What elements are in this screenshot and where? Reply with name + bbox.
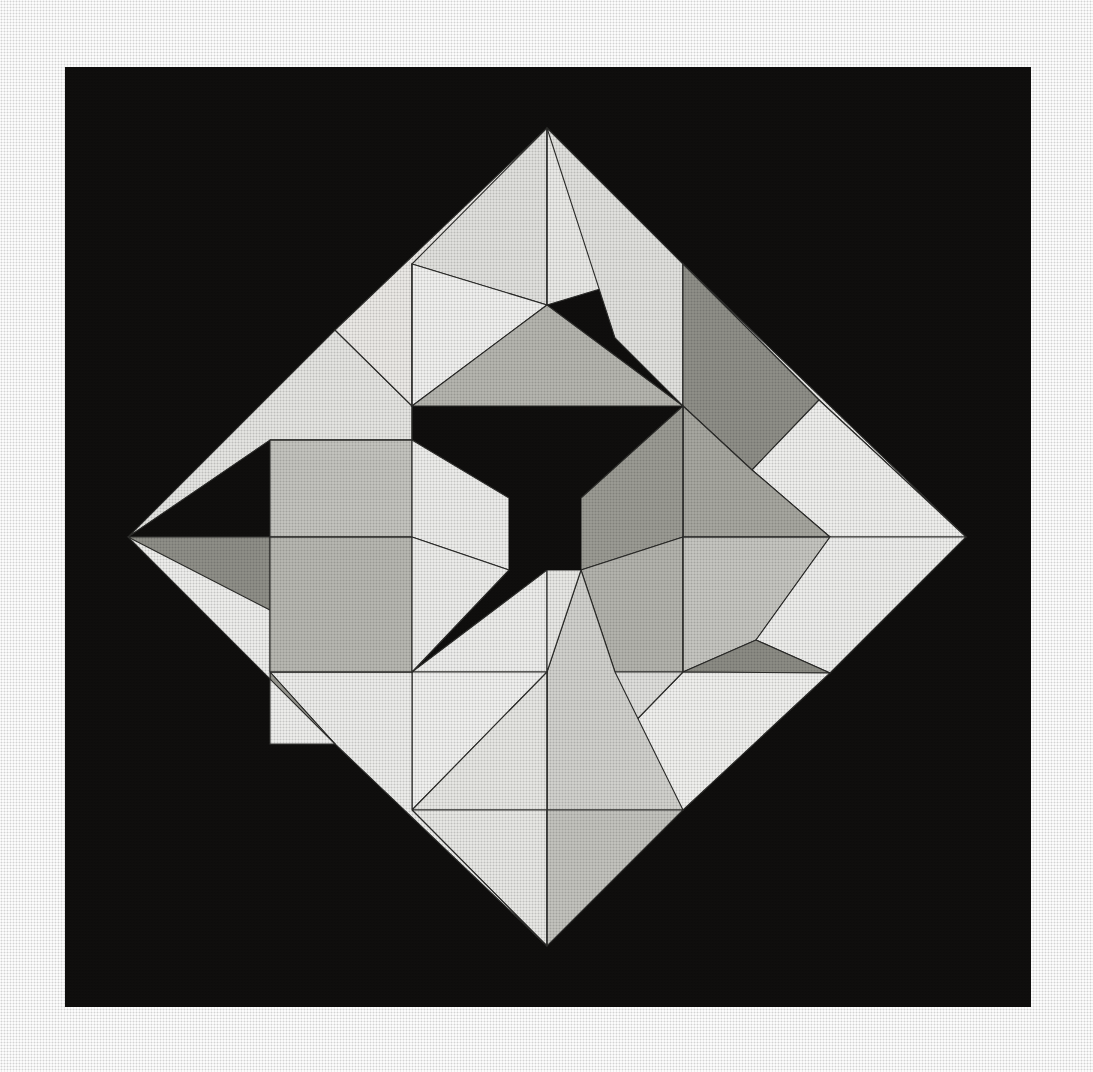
- facet-w-sq-top: [270, 440, 412, 537]
- artwork-root: [0, 0, 1093, 1072]
- facet-w-sq-bottom: [270, 537, 412, 672]
- geometric-print-canvas: [0, 0, 1093, 1072]
- center-void-square: [509, 498, 581, 570]
